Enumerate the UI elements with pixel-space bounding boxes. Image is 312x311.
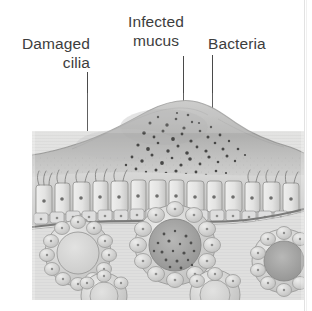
page-margin-rule (304, 0, 305, 311)
label-infected-mucus: Infected mucus (112, 12, 200, 50)
label-bacteria: Bacteria (208, 34, 300, 53)
page-margin-rule-2 (306, 0, 307, 311)
histology-illustration (32, 93, 304, 300)
illustration-svg (32, 93, 304, 300)
label-damaged-cilia: Damaged cilia (2, 34, 90, 72)
figure-canvas: Damaged cilia Infected mucus Bacteria (0, 0, 312, 311)
